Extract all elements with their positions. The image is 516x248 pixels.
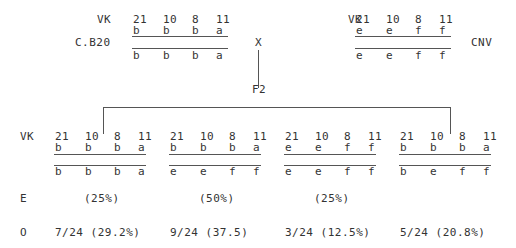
offspring-3-bottom-allele: e [285,166,292,178]
offspring-2-bottom-allele: f [253,166,260,178]
offspring-1-chromosome-line-top [54,154,146,155]
offspring-3-chromosome-line-bottom [284,165,376,166]
offspring-2-top-allele: b [200,142,207,154]
offspring-2-expected: (50%) [199,193,235,205]
parent2-chromosome-line-bottom [355,48,451,49]
parent2-chromosome-line-top [355,36,451,37]
offspring-2-chromosome-line-bottom [169,165,261,166]
offspring-1-chromosome-line-bottom [54,165,146,166]
offspring-4-bottom-allele: f [483,166,490,178]
offspring-3-observed: 3/24 (12.5%) [285,227,370,239]
offspring-1-top-allele: b [85,142,92,154]
parent2-bottom-allele: f [439,50,446,62]
parent1-name: C.B20 [75,37,111,49]
offspring-1-top-allele: a [138,142,145,154]
offspring-4-top-allele: b [430,142,437,154]
offspring-3-top-allele: f [344,142,351,154]
f2-bracket-left-drop [103,107,104,134]
parent1-bottom-allele: b [133,50,140,62]
cross-symbol: X [255,37,262,49]
offspring-3-bottom-allele: f [368,166,375,178]
offspring-3-top-allele: e [315,142,322,154]
offspring-4-bottom-allele: e [430,166,437,178]
offspring-2-bottom-allele: e [170,166,177,178]
expected-row-label: E [20,193,27,205]
f2-bracket-horizontal [103,107,451,108]
f2-loci-label: VK [20,131,34,143]
offspring-1-bottom-allele: a [138,166,145,178]
offspring-1-top-allele: b [114,142,121,154]
offspring-4-observed: 5/24 (20.8%) [400,227,485,239]
parent1-loci-label: VK [97,14,111,26]
offspring-2-top-allele: a [253,142,260,154]
parent2-name: CNV [471,37,492,49]
offspring-2-bottom-allele: f [229,166,236,178]
generation-label: F2 [252,84,266,96]
f2-bracket-right-drop [450,107,451,134]
offspring-4-chromosome-line-top [399,154,491,155]
offspring-4-top-allele: b [400,142,407,154]
offspring-3-bottom-allele: e [315,166,322,178]
offspring-3-expected: (25%) [314,193,350,205]
offspring-2-top-allele: b [170,142,177,154]
parent1-bottom-allele: b [192,50,199,62]
parent1-chromosome-line-bottom [132,48,228,49]
offspring-4-chromosome-line-bottom [399,165,491,166]
parent1-chromosome-line-top [132,36,228,37]
offspring-1-bottom-allele: b [55,166,62,178]
observed-row-label: O [20,227,27,239]
parent2-bottom-allele: e [356,50,363,62]
parent2-bottom-allele: e [386,50,393,62]
offspring-3-bottom-allele: f [344,166,351,178]
offspring-4-bottom-allele: f [459,166,466,178]
offspring-3-chromosome-line-top [284,154,376,155]
offspring-2-bottom-allele: e [200,166,207,178]
offspring-1-bottom-allele: b [85,166,92,178]
offspring-1-observed: 7/24 (29.2%) [55,227,140,239]
offspring-1-bottom-allele: b [114,166,121,178]
offspring-4-bottom-allele: b [400,166,407,178]
parent1-bottom-allele: a [216,50,223,62]
offspring-4-top-allele: a [483,142,490,154]
offspring-4-top-allele: b [459,142,466,154]
offspring-1-top-allele: b [55,142,62,154]
offspring-2-observed: 9/24 (37.5) [170,227,248,239]
offspring-3-top-allele: f [368,142,375,154]
offspring-3-top-allele: e [285,142,292,154]
parent2-bottom-allele: f [415,50,422,62]
offspring-2-chromosome-line-top [169,154,261,155]
offspring-1-expected: (25%) [84,193,120,205]
parent1-bottom-allele: b [163,50,170,62]
offspring-2-top-allele: b [229,142,236,154]
